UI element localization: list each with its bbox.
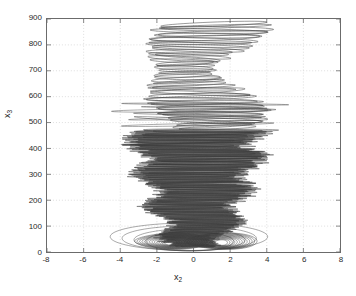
y-tick-label: 0 — [38, 249, 42, 257]
y-axis-label-subscript: 3 — [6, 110, 13, 114]
x-tick-label: 4 — [265, 256, 269, 264]
y-tick-label: 100 — [29, 223, 42, 231]
y-tick-label: 400 — [29, 145, 42, 153]
x-tick-label: -6 — [79, 256, 86, 264]
x-axis-tick-labels: -8-6-4-202468 — [46, 256, 341, 268]
y-tick-label: 200 — [29, 197, 42, 205]
x-tick-label: 8 — [339, 256, 343, 264]
y-tick-label: 900 — [29, 14, 42, 22]
x-axis-label: x2 — [0, 272, 356, 283]
x-tick-label: 0 — [191, 256, 195, 264]
y-tick-label: 600 — [29, 92, 42, 100]
x-tick-label: 6 — [302, 256, 306, 264]
x-tick-label: -8 — [42, 256, 49, 264]
x-tick-label: 2 — [228, 256, 232, 264]
y-tick-label: 700 — [29, 66, 42, 74]
y-tick-label: 800 — [29, 40, 42, 48]
y-axis-label: x3 — [2, 110, 13, 118]
figure: 0100200300400500600700800900 -8-6-4-2024… — [0, 0, 356, 296]
y-axis-tick-labels: 0100200300400500600700800900 — [6, 18, 42, 253]
y-tick-label: 500 — [29, 118, 42, 126]
y-tick-label: 300 — [29, 171, 42, 179]
plot-area — [46, 18, 341, 253]
x-tick-label: -4 — [116, 256, 123, 264]
x-tick-label: -2 — [153, 256, 160, 264]
trajectory-plot — [47, 19, 340, 252]
y-axis-label-base: x — [2, 114, 12, 119]
x-axis-label-subscript: 2 — [178, 276, 182, 283]
